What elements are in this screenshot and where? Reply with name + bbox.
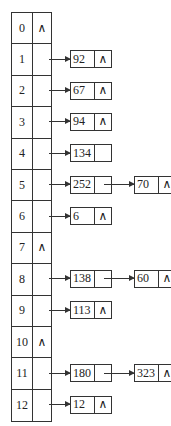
next-pointer xyxy=(95,145,111,161)
chain: 12∧ xyxy=(42,396,112,414)
bucket-row: 7∧ xyxy=(12,233,51,264)
bucket-index: 3 xyxy=(12,107,33,137)
null-pointer-icon: ∧ xyxy=(95,114,111,130)
node-value: 67 xyxy=(71,83,95,99)
chain: 67∧ xyxy=(42,82,112,100)
bucket-row: 10∧ xyxy=(12,327,51,358)
null-pointer-icon: ∧ xyxy=(33,233,51,263)
list-node: 70∧ xyxy=(134,176,171,194)
arrow-icon xyxy=(49,278,70,279)
null-pointer-icon: ∧ xyxy=(159,365,171,381)
node-value: 138 xyxy=(71,271,95,287)
node-value: 6 xyxy=(71,208,95,224)
chain: 94∧ xyxy=(42,113,112,131)
node-value: 60 xyxy=(135,271,159,287)
bucket-index: 11 xyxy=(12,358,33,388)
list-node: 113∧ xyxy=(70,301,112,319)
bucket-row: 0∧ xyxy=(12,13,51,44)
list-node: 94∧ xyxy=(70,113,112,131)
null-pointer-icon: ∧ xyxy=(159,271,171,287)
null-pointer-icon: ∧ xyxy=(95,302,111,318)
null-pointer-icon: ∧ xyxy=(33,13,51,43)
list-node: 6∧ xyxy=(70,207,112,225)
bucket-index: 0 xyxy=(12,13,33,43)
chain: 13860∧ xyxy=(42,270,171,288)
chain: 134 xyxy=(42,144,112,162)
arrow-icon xyxy=(49,153,70,154)
node-value: 94 xyxy=(71,114,95,130)
list-node: 60∧ xyxy=(134,270,171,288)
null-pointer-icon: ∧ xyxy=(95,208,111,224)
chain: 25270∧ xyxy=(42,176,171,194)
node-value: 70 xyxy=(135,177,159,193)
list-node: 92∧ xyxy=(70,50,112,68)
null-pointer-icon: ∧ xyxy=(33,327,51,357)
bucket-index: 9 xyxy=(12,296,33,326)
arrow-icon xyxy=(49,216,70,217)
arrow-icon xyxy=(104,373,134,374)
bucket-index: 12 xyxy=(12,390,33,421)
null-pointer-icon: ∧ xyxy=(159,177,171,193)
chain: 6∧ xyxy=(42,207,112,225)
arrow-icon xyxy=(49,90,70,91)
arrow-icon xyxy=(49,373,70,374)
node-value: 323 xyxy=(135,365,159,381)
arrow-icon xyxy=(104,184,134,185)
null-pointer-icon: ∧ xyxy=(95,397,111,413)
list-node: 134 xyxy=(70,144,112,162)
node-value: 12 xyxy=(71,397,95,413)
arrow-icon xyxy=(104,278,134,279)
bucket-index: 6 xyxy=(12,201,33,231)
arrow-icon xyxy=(49,184,70,185)
node-value: 252 xyxy=(71,177,95,193)
chain: 92∧ xyxy=(42,50,112,68)
arrow-icon xyxy=(49,310,70,311)
node-value: 113 xyxy=(71,302,95,318)
node-value: 134 xyxy=(71,145,95,161)
chain: 180323∧ xyxy=(42,364,171,382)
node-value: 92 xyxy=(71,51,95,67)
bucket-index: 4 xyxy=(12,139,33,169)
list-node: 12∧ xyxy=(70,396,112,414)
bucket-index: 5 xyxy=(12,170,33,200)
bucket-index: 8 xyxy=(12,264,33,294)
list-node: 67∧ xyxy=(70,82,112,100)
bucket-index: 1 xyxy=(12,44,33,74)
arrow-icon xyxy=(49,121,70,122)
bucket-index: 7 xyxy=(12,233,33,263)
arrow-icon xyxy=(49,59,70,60)
null-pointer-icon: ∧ xyxy=(95,83,111,99)
arrow-icon xyxy=(49,404,70,405)
list-node: 323∧ xyxy=(134,364,171,382)
bucket-index: 2 xyxy=(12,76,33,106)
null-pointer-icon: ∧ xyxy=(95,51,111,67)
node-value: 180 xyxy=(71,365,95,381)
bucket-index: 10 xyxy=(12,327,33,357)
chain: 113∧ xyxy=(42,301,112,319)
